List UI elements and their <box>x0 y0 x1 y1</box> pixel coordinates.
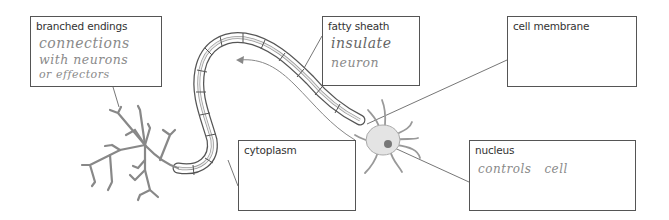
label-nucleus: nucleus <box>475 144 514 156</box>
answer-line-2: with neurons <box>39 52 128 67</box>
answer-line-1: connections <box>39 35 130 51</box>
answer-line-1: insulate <box>331 35 391 51</box>
label-box-cell-membrane[interactable]: cell membrane <box>507 16 637 87</box>
cell-body <box>355 100 420 173</box>
label-cytoplasm: cytoplasm <box>244 144 296 156</box>
answer-line-1: controls cell <box>478 162 568 176</box>
leader-fatty-sheath <box>303 36 322 70</box>
branched-endings-tree <box>82 106 178 200</box>
label-box-fatty-sheath[interactable]: fatty sheath insulate neuron <box>322 16 420 86</box>
label-fatty-sheath: fatty sheath <box>328 20 389 32</box>
label-cell-membrane: cell membrane <box>513 20 589 32</box>
answer-line-2: neuron <box>331 55 379 70</box>
label-branched-endings: branched endings <box>36 20 127 32</box>
leader-cytoplasm <box>228 160 238 186</box>
leader-branched-endings <box>113 87 119 107</box>
leader-nucleus <box>388 145 469 182</box>
answer-line-3: or effectors <box>39 68 110 81</box>
nucleus-shape <box>384 140 392 148</box>
label-box-branched-endings[interactable]: branched endings connections with neuron… <box>30 16 162 87</box>
label-box-cytoplasm[interactable]: cytoplasm <box>238 140 356 211</box>
label-box-nucleus[interactable]: nucleus controls cell <box>469 140 636 211</box>
